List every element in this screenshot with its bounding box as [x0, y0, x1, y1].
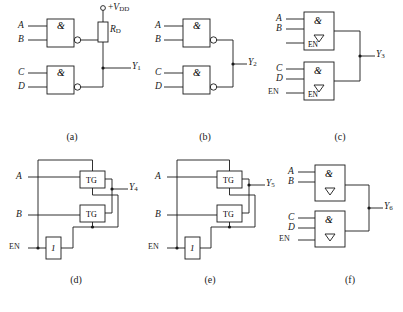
panel-a: & & A B C D Y1 +VDD RD	[0, 0, 150, 130]
label-input-a: A	[288, 166, 294, 176]
gate-b2-bubble	[210, 84, 216, 90]
caption-d: (d)	[56, 274, 96, 285]
gate-a1-bubble	[74, 37, 80, 43]
gate-c2-symbol: &	[314, 65, 322, 76]
label-output-y1: Y1	[132, 61, 141, 72]
label-input-a: A	[155, 20, 161, 30]
gate-a2-symbol: &	[57, 67, 65, 78]
label-input-c: C	[288, 212, 294, 222]
label-output-y5: Y5	[266, 178, 275, 189]
label-input-d: D	[288, 222, 295, 232]
tg-e1-symbol: TG	[223, 176, 234, 185]
label-input-en: EN	[9, 242, 20, 251]
panel-c: & & EN EN A B C D EN Y3	[272, 0, 403, 130]
panel-b: & & A B C D Y2	[155, 0, 260, 130]
panel-b-schematic: & &	[155, 0, 260, 130]
label-input-c: C	[18, 67, 24, 77]
inv-e-symbol: 1	[190, 243, 195, 253]
panel-c-schematic: & & EN EN	[272, 0, 403, 130]
label-input-a: A	[155, 171, 161, 181]
tg-d1-symbol: TG	[86, 176, 97, 185]
label-input-b: B	[16, 209, 22, 219]
label-output-y4: Y4	[129, 182, 138, 193]
gate-a1-symbol: &	[57, 20, 65, 31]
junction-dot	[358, 54, 361, 57]
label-output-y2: Y2	[248, 57, 257, 68]
panel-d: TG TG 1 A B EN Y4	[8, 155, 148, 270]
gate-c1-symbol: &	[314, 15, 322, 26]
label-input-d: D	[18, 81, 25, 91]
tg-d2-symbol: TG	[86, 210, 97, 219]
label-input-b: B	[155, 209, 161, 219]
label-input-en: EN	[279, 234, 290, 243]
panel-f-schematic: & &	[285, 155, 403, 270]
label-input-en: EN	[268, 87, 279, 96]
label-resistor-rd: RD	[110, 24, 121, 35]
panel-e: TG TG 1 A B EN Y5	[155, 155, 285, 270]
junction-dot	[175, 246, 178, 249]
panel-e-schematic: TG TG 1	[155, 155, 285, 270]
inv-d-symbol: 1	[51, 243, 56, 253]
label-input-a: A	[18, 20, 24, 30]
gate-c2-en-label: EN	[308, 90, 319, 99]
supply-terminal	[101, 6, 106, 11]
label-supply-vdd: +VDD	[108, 2, 129, 13]
three-state-symbol-f2	[325, 234, 335, 241]
caption-c: (c)	[320, 131, 360, 142]
gate-c1-en-label: EN	[308, 40, 319, 49]
label-input-d: D	[276, 73, 283, 83]
gate-b1-bubble	[210, 37, 216, 43]
gate-f2-symbol: &	[325, 214, 333, 225]
junction-dot	[101, 66, 104, 69]
label-input-b: B	[155, 34, 161, 44]
label-output-y6: Y6	[384, 201, 393, 212]
label-input-c: C	[276, 63, 282, 73]
caption-a: (a)	[52, 131, 92, 142]
panel-d-schematic: TG TG 1	[8, 155, 148, 270]
gate-b2-symbol: &	[193, 67, 201, 78]
label-input-c: C	[155, 67, 161, 77]
tg-e2-symbol: TG	[223, 210, 234, 219]
three-state-symbol-f1	[325, 188, 335, 195]
label-input-d: D	[155, 81, 162, 91]
junction-dot	[247, 183, 250, 186]
label-input-b: B	[18, 34, 24, 44]
label-input-b: B	[288, 176, 294, 186]
label-input-a: A	[16, 171, 22, 181]
gate-a2-bubble	[74, 84, 80, 90]
gate-f1-symbol: &	[325, 168, 333, 179]
caption-e: (e)	[190, 274, 230, 285]
label-input-b: B	[276, 23, 282, 33]
gate-b1-symbol: &	[193, 20, 201, 31]
label-input-en: EN	[148, 242, 159, 251]
junction-dot	[110, 187, 113, 190]
resistor-rd-box	[98, 22, 108, 42]
label-output-y3: Y3	[376, 49, 385, 60]
label-input-a: A	[276, 13, 282, 23]
junction-dot	[367, 206, 370, 209]
panel-f: & & A B C D EN Y6	[285, 155, 403, 270]
caption-b: (b)	[185, 131, 225, 142]
junction-dot	[231, 62, 234, 65]
caption-f: (f)	[330, 274, 370, 285]
junction-dot	[228, 225, 231, 228]
junction-dot	[91, 225, 94, 228]
junction-dot	[36, 246, 39, 249]
